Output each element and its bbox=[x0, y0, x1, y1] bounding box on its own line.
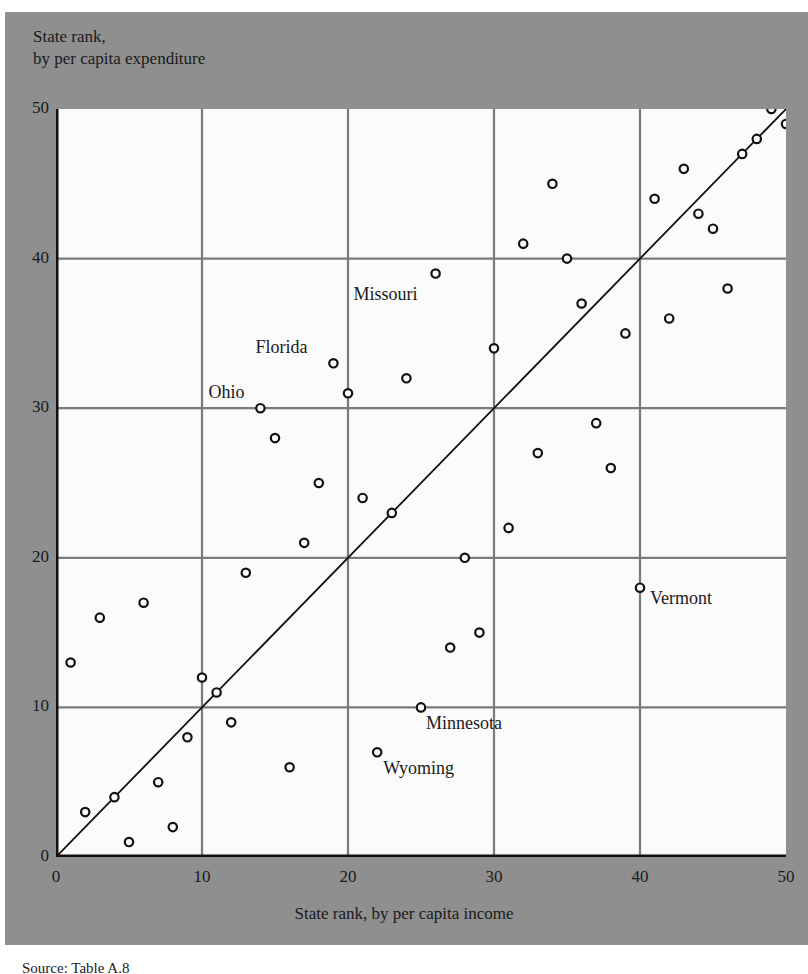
data-point bbox=[694, 210, 702, 218]
data-point bbox=[256, 404, 264, 412]
data-point bbox=[300, 539, 308, 547]
data-point bbox=[315, 479, 323, 487]
data-point bbox=[577, 299, 585, 307]
data-point bbox=[738, 150, 746, 158]
y-tick-label: 20 bbox=[19, 547, 49, 567]
data-point bbox=[329, 359, 337, 367]
y-tick-label: 10 bbox=[19, 696, 49, 716]
state-label-missouri: Missouri bbox=[354, 284, 418, 305]
data-point bbox=[96, 613, 104, 621]
data-point bbox=[723, 284, 731, 292]
state-label-minnesota: Minnesota bbox=[426, 713, 502, 734]
x-tick-label: 30 bbox=[474, 867, 514, 887]
y-axis-label: State rank, by per capita expenditure bbox=[33, 26, 205, 70]
data-point bbox=[665, 314, 673, 322]
data-point bbox=[373, 748, 381, 756]
data-point bbox=[110, 793, 118, 801]
data-point bbox=[563, 254, 571, 262]
data-point bbox=[782, 120, 786, 128]
data-point bbox=[548, 180, 556, 188]
x-tick-label: 50 bbox=[766, 867, 806, 887]
data-point bbox=[242, 569, 250, 577]
state-label-vermont: Vermont bbox=[650, 588, 712, 609]
data-point bbox=[227, 718, 235, 726]
x-tick-label: 20 bbox=[328, 867, 368, 887]
data-point bbox=[344, 389, 352, 397]
data-point bbox=[388, 509, 396, 517]
state-label-wyoming: Wyoming bbox=[383, 758, 454, 779]
data-point bbox=[139, 598, 147, 606]
y-tick-label: 50 bbox=[19, 98, 49, 118]
scatter-plot bbox=[56, 109, 786, 857]
data-point bbox=[66, 658, 74, 666]
x-tick-label: 40 bbox=[620, 867, 660, 887]
data-point bbox=[650, 195, 658, 203]
data-point bbox=[446, 643, 454, 651]
data-point bbox=[169, 823, 177, 831]
data-point bbox=[154, 778, 162, 786]
data-point bbox=[709, 224, 717, 232]
y-axis-label-line2: by per capita expenditure bbox=[33, 48, 205, 70]
data-point bbox=[767, 109, 775, 113]
x-tick-label: 10 bbox=[182, 867, 222, 887]
y-tick-label: 40 bbox=[19, 248, 49, 268]
y-axis-label-line1: State rank, bbox=[33, 26, 205, 48]
data-point bbox=[534, 449, 542, 457]
data-point bbox=[417, 703, 425, 711]
data-point bbox=[636, 584, 644, 592]
data-point bbox=[198, 673, 206, 681]
y-tick-label: 0 bbox=[19, 846, 49, 866]
plot-area bbox=[56, 109, 786, 857]
data-point bbox=[753, 135, 761, 143]
source-note: Source: Table A.8 bbox=[22, 960, 129, 974]
data-point bbox=[125, 838, 133, 846]
y-tick-label: 30 bbox=[19, 397, 49, 417]
data-point bbox=[81, 808, 89, 816]
data-point bbox=[358, 494, 366, 502]
data-point bbox=[607, 464, 615, 472]
data-point bbox=[271, 434, 279, 442]
state-label-florida: Florida bbox=[255, 337, 307, 358]
data-point bbox=[592, 419, 600, 427]
data-point bbox=[183, 733, 191, 741]
diagonal-reference-line bbox=[56, 109, 786, 857]
data-point bbox=[519, 239, 527, 247]
x-axis-label: State rank, by per capita income bbox=[0, 904, 808, 924]
data-point bbox=[490, 344, 498, 352]
data-point bbox=[621, 329, 629, 337]
state-label-ohio: Ohio bbox=[208, 382, 244, 403]
x-tick-label: 0 bbox=[36, 867, 76, 887]
data-point bbox=[680, 165, 688, 173]
data-point bbox=[475, 628, 483, 636]
data-point bbox=[504, 524, 512, 532]
data-point bbox=[402, 374, 410, 382]
data-point bbox=[212, 688, 220, 696]
data-point bbox=[431, 269, 439, 277]
data-point bbox=[461, 554, 469, 562]
data-point bbox=[285, 763, 293, 771]
